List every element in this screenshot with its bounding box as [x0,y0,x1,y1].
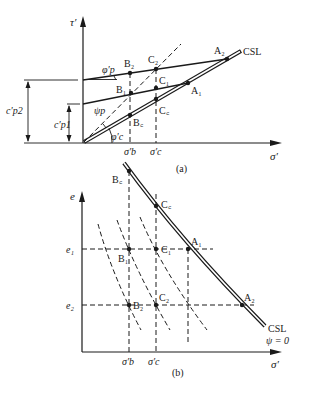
sigma-c-tick-b: σ′c [148,356,160,367]
sigma-c-tick-a: σ′c [150,146,162,157]
e2-tick: e₂ [66,300,74,311]
envelope-lower [83,83,188,104]
label-cc: C꜀ [159,105,170,116]
sigma-axis-b-arrow-icon [270,349,282,355]
label-bc: B꜀ [133,117,144,128]
panel-b: e σ′ (b) CSL ψ = 0 e₁ e₂ σ′b σ′c B꜀ C꜀ [66,163,289,379]
label-b1-b: B₁ [118,253,128,264]
e-axis-arrow-icon [79,191,85,202]
sigma-axis-a-arrow-icon [270,140,282,146]
psi-p-arc [103,124,106,128]
cp2-arrow-up-icon [26,81,31,88]
tau-axis-label: τ′ [70,16,77,28]
e1-tick: e₁ [66,244,74,255]
label-b2: B₂ [124,58,134,69]
cp1-arrow-down-icon [67,135,72,142]
e-axis-label: e [70,190,75,202]
point-c1-b [154,247,158,251]
point-b2-b [127,303,131,307]
csl-label-b: CSL [268,323,286,334]
cp1-arrow-up-icon [67,105,72,112]
label-c1: C₁ [159,75,169,86]
point-cc [154,97,158,101]
point-a1-b [186,247,190,251]
panel-b-caption: (b) [172,367,184,379]
state-curve-1 [98,224,141,330]
label-b2-b: B₂ [133,300,143,311]
point-c1 [154,86,158,90]
label-c2-b: C₂ [159,292,169,303]
label-c1-b: C₁ [161,244,171,255]
state-curve-3 [140,217,207,330]
label-bc-b: B꜀ [112,174,123,185]
cp1-label: c′p1 [54,119,71,130]
cp2-label: c′p2 [6,105,23,116]
phi-c-label: φ′c [111,131,124,142]
point-bc-b [127,169,131,173]
point-cc-b [154,204,158,208]
point-c2-b [154,303,158,307]
panel-a-caption: (a) [176,163,187,175]
point-b1 [129,91,133,95]
point-a2-b [240,303,244,307]
point-a2 [225,57,229,61]
label-a2-b: A₂ [244,292,255,303]
csl-label-a: CSL [243,46,261,57]
label-a2: A₂ [214,45,225,56]
sigma-axis-b-label: σ′ [271,358,279,370]
panel-a: τ′ σ′ (a) CSL φ′p ψp φ′c c′p2 c′p1 [6,16,282,175]
sigma-b-tick-a: σ′b [124,146,136,157]
soil-mechanics-diagram: τ′ σ′ (a) CSL φ′p ψp φ′c c′p2 c′p1 [0,0,309,395]
label-cc-b: C꜀ [161,199,172,210]
label-a1: A₁ [191,85,202,96]
state-curve-2 [117,220,170,330]
point-b1-b [127,247,131,251]
tau-axis-arrow-icon [80,16,86,27]
csl-sublabel-b: ψ = 0 [266,335,289,346]
sigma-axis-a-label: σ′ [270,150,278,162]
label-b1: B₁ [116,84,126,95]
point-bc [128,113,132,117]
cp2-arrow-down-icon [26,135,31,142]
point-b2 [128,71,132,75]
point-c2 [154,67,158,71]
sigma-b-tick-b: σ′b [122,356,134,367]
label-a1-b: A₁ [191,236,202,247]
label-c2: C₂ [148,54,158,65]
psi-p-label: ψp [94,105,105,116]
point-a1 [186,81,190,85]
phi-p-label: φ′p [102,64,115,75]
